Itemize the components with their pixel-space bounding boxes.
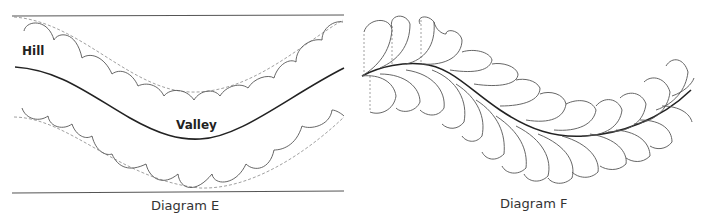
hill-label: Hill bbox=[22, 44, 44, 58]
diagram-f-caption: Diagram F bbox=[500, 196, 567, 211]
diagram-f: Diagram F bbox=[350, 0, 703, 221]
valley-label: Valley bbox=[176, 118, 217, 132]
diagram-e: Hill Valley Diagram E bbox=[0, 0, 350, 221]
diagram-e-drawing bbox=[0, 0, 350, 221]
diagram-e-caption: Diagram E bbox=[151, 198, 219, 213]
diagram-f-drawing bbox=[350, 0, 703, 221]
